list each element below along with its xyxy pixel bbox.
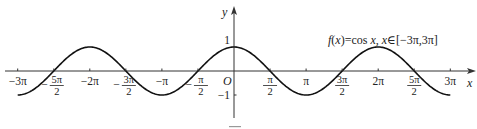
svg-text:−π: −π	[156, 75, 168, 87]
svg-text:2: 2	[54, 86, 59, 97]
svg-text:3π: 3π	[124, 74, 135, 85]
svg-text:5π: 5π	[51, 74, 62, 85]
svg-text:3π: 3π	[337, 74, 348, 85]
x-tick-label: 3π	[445, 75, 457, 87]
svg-text:−: −	[185, 78, 192, 90]
svg-text:−3π: −3π	[9, 75, 27, 87]
x-tick-label: π2	[263, 74, 277, 97]
x-tick-label: −π	[156, 75, 168, 87]
svg-text:2: 2	[340, 86, 345, 97]
figure-caption-fragment	[229, 126, 241, 127]
x-tick-label: −5π2	[41, 74, 64, 97]
svg-text:π: π	[267, 74, 273, 85]
svg-text:3π: 3π	[445, 75, 457, 87]
svg-text:2: 2	[267, 86, 272, 97]
x-tick-label: π	[303, 75, 309, 87]
x-tick-label: 3π2	[335, 74, 349, 97]
x-tick-label: 2π	[372, 75, 384, 87]
origin-label: O	[223, 74, 232, 88]
function-title: f(x)=cos x, x∈[−3π,3π]	[328, 33, 438, 47]
svg-text:2: 2	[412, 86, 417, 97]
x-tick-label: −3π2	[113, 74, 136, 97]
svg-text:π: π	[303, 75, 309, 87]
x-tick-label: −2π	[81, 75, 99, 87]
svg-text:5π: 5π	[409, 74, 420, 85]
svg-text:−2π: −2π	[81, 75, 99, 87]
title-rhs: =cos	[345, 33, 371, 47]
svg-text:π: π	[198, 74, 204, 85]
y-axis-label: y	[221, 5, 228, 19]
svg-text:−: −	[113, 78, 120, 90]
svg-text:2: 2	[126, 86, 131, 97]
svg-text:−: −	[41, 78, 48, 90]
x-axis-ticks: −3π−5π2−2π−3π2−π−π2π2π3π22π5π23π	[9, 69, 457, 98]
x-axis-label: x	[466, 76, 473, 90]
y-tick-label: −1	[218, 89, 230, 101]
svg-text:2: 2	[198, 86, 203, 97]
cosine-chart: −3π−5π2−2π−3π2−π−π2π2π3π22π5π23π 1−1 x y…	[0, 0, 477, 129]
svg-text:2π: 2π	[372, 75, 384, 87]
x-tick-label: −3π	[9, 75, 27, 87]
title-domain: ∈[−3π,3π]	[387, 33, 438, 47]
x-tick-label: −π2	[185, 74, 208, 97]
y-tick-label: 1	[224, 34, 230, 46]
x-tick-label: 5π2	[407, 74, 421, 97]
